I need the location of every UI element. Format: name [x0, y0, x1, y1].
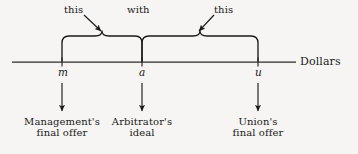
caption-arbitrator: Arbitrator's ideal	[92, 117, 192, 139]
caption-arbitrator-line2: ideal	[92, 128, 192, 139]
caption-arbitrator-line1: Arbitrator's	[112, 116, 172, 127]
annotation-right-this: this	[214, 5, 233, 16]
annotation-with: with	[127, 5, 150, 16]
tick-label-a: a	[139, 67, 145, 78]
tick-label-m: m	[58, 67, 68, 78]
number-line-diagram: this with this Dollars m a u Management'…	[0, 0, 358, 154]
brace-m-to-a	[62, 31, 142, 61]
caption-union-line1: Union's	[238, 116, 277, 127]
caption-union-line2: final offer	[200, 128, 316, 139]
tick-label-u: u	[255, 67, 262, 78]
caption-union: Union's final offer	[200, 117, 316, 139]
pointer-arrow-left-this	[84, 15, 101, 31]
pointer-arrow-right-this	[199, 15, 214, 31]
annotation-left-this: this	[64, 5, 83, 16]
caption-management-line1: Management's	[24, 116, 100, 127]
brace-a-to-u	[142, 31, 258, 61]
axis-label-dollars: Dollars	[300, 56, 341, 68]
